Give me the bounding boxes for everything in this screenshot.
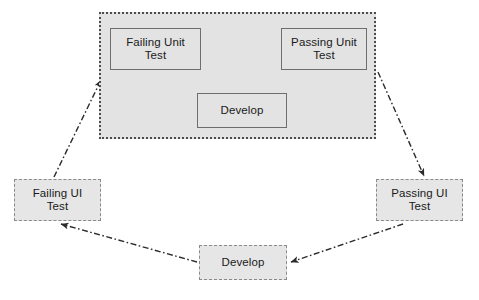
node-failing-ui-test-label: Failing UI Test xyxy=(31,187,85,213)
node-passing-unit-test[interactable]: Passing Unit Test xyxy=(281,28,367,70)
node-passing-ui-test[interactable]: Passing UI Test xyxy=(376,179,463,221)
node-develop-ui-label: Develop xyxy=(220,256,267,269)
node-develop-unit-label: Develop xyxy=(219,104,266,117)
node-passing-ui-test-label: Passing UI Test xyxy=(389,187,450,213)
node-develop-ui[interactable]: Develop xyxy=(199,245,287,280)
node-passing-unit-test-label: Passing Unit Test xyxy=(289,36,359,62)
edge-failing-ui-to-unit-loop xyxy=(54,80,101,177)
node-failing-ui-test[interactable]: Failing UI Test xyxy=(14,179,101,221)
edge-passing-ui-to-develop-ui xyxy=(291,224,403,262)
node-failing-unit-test-label: Failing Unit Test xyxy=(124,36,187,62)
edge-unit-loop-to-passing-ui xyxy=(378,72,424,176)
edge-develop-ui-to-failing-ui xyxy=(61,224,197,262)
node-develop-unit[interactable]: Develop xyxy=(197,93,287,128)
node-failing-unit-test[interactable]: Failing Unit Test xyxy=(110,28,201,70)
diagram-canvas: Failing Unit Test Passing Unit Test Deve… xyxy=(0,0,479,300)
